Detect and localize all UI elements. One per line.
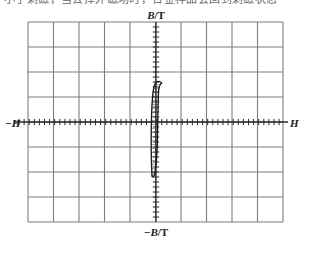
narrow-hysteresis-loop <box>151 81 161 176</box>
b-axis-label-bottom: −B/T <box>144 226 168 238</box>
hysteresis-loop-diagram <box>0 0 310 260</box>
h-axis-label-positive: H <box>290 117 299 129</box>
h-axis-label-negative: −H <box>5 117 20 129</box>
b-axis-label-top: B/T <box>147 9 165 21</box>
